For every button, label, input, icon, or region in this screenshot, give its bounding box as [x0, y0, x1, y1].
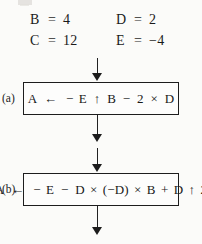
- variable-e: E = −4: [116, 33, 164, 49]
- variable-declarations: B = 4 D = 2 C = 12 E = −4: [0, 9, 202, 51]
- arrow-out-of-box-b-icon: [92, 206, 103, 236]
- expr-b-op-5: ↑: [189, 182, 196, 198]
- variable-row: C = 12 E = −4: [0, 30, 202, 51]
- arrow-into-box-b-icon: [92, 148, 103, 173]
- expr-b-operand-3: (−D): [103, 182, 129, 198]
- variable-d-value: 2: [149, 12, 156, 28]
- expr-a-op-1: ↑: [94, 91, 101, 107]
- expr-a-operand-3: 2: [137, 91, 144, 107]
- expr-a-op-3: ×: [151, 91, 158, 107]
- variable-b-value: 4: [63, 12, 70, 28]
- expr-a-unary-minus: −: [66, 91, 73, 107]
- arrow-into-box-a-icon: [92, 58, 103, 82]
- expr-b-target: A: [0, 182, 4, 198]
- expr-b-unary-minus: −: [33, 182, 40, 198]
- variable-e-value: −4: [149, 33, 164, 49]
- expr-b-assign-icon: ←: [11, 182, 24, 198]
- expr-b-operand-2: D: [75, 182, 85, 198]
- variable-e-name: E: [116, 33, 127, 49]
- expr-b-op-4: +: [161, 182, 168, 198]
- expr-a-operand-2: B: [107, 91, 116, 107]
- process-box-a: A ← − E ↑ B − 2 × D: [23, 82, 179, 115]
- expr-b-op-2: ×: [90, 182, 97, 198]
- expr-b-operand-6: 2: [201, 182, 202, 198]
- expression-b: A ← − E − D × (−D) × B + D ↑ 2: [0, 182, 202, 198]
- expr-a-target: A: [28, 91, 38, 107]
- expr-b-operand-1: E: [46, 182, 54, 198]
- expr-a-assign-icon: ←: [44, 91, 57, 107]
- variable-d-equals: =: [134, 12, 142, 28]
- variable-c-value: 12: [63, 33, 77, 49]
- expr-a-op-2: −: [123, 91, 130, 107]
- expr-b-op-3: ×: [134, 182, 141, 198]
- step-label-a: (a): [2, 92, 22, 104]
- variable-c-name: C: [30, 33, 41, 49]
- process-box-b: A ← − E − D × (−D) × B + D ↑ 2: [23, 173, 179, 206]
- variable-d-name: D: [116, 12, 127, 28]
- flowchart-figure: B = 4 D = 2 C = 12 E = −4: [0, 0, 202, 244]
- variable-b-equals: =: [48, 12, 56, 28]
- expr-b-operand-4: B: [147, 182, 156, 198]
- arrow-out-of-box-a-icon: [92, 115, 103, 143]
- variable-c-equals: =: [48, 33, 56, 49]
- variable-b-name: B: [30, 12, 41, 28]
- expr-a-operand-1: E: [79, 91, 87, 107]
- expr-b-operand-5: D: [174, 182, 184, 198]
- variable-e-equals: =: [134, 33, 142, 49]
- variable-c: C = 12: [30, 33, 102, 49]
- variable-row: B = 4 D = 2: [0, 9, 202, 30]
- expression-a: A ← − E ↑ B − 2 × D: [28, 91, 175, 107]
- expr-a-operand-4: D: [165, 91, 175, 107]
- variable-d: D = 2: [116, 12, 156, 28]
- expr-b-op-1: −: [61, 182, 68, 198]
- scan-artifact-secondary: [20, 4, 29, 6]
- variable-b: B = 4: [30, 12, 102, 28]
